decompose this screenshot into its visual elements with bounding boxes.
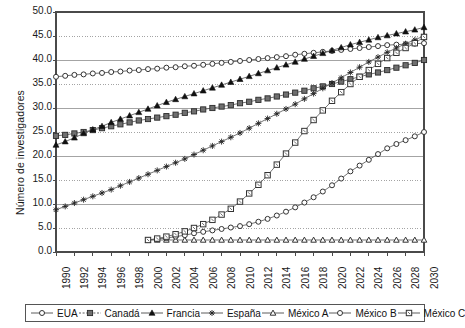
x-tick-label: 2002 xyxy=(171,267,182,289)
x-tick-label: 2006 xyxy=(208,267,219,289)
data-point xyxy=(228,225,233,230)
x-tick-label: 2016 xyxy=(300,267,311,289)
data-point xyxy=(173,232,178,237)
square-filled-icon xyxy=(78,307,102,319)
legend-item-méxico-b[interactable]: México B xyxy=(328,307,396,319)
data-point xyxy=(219,226,224,231)
data-point xyxy=(40,311,45,316)
data-point xyxy=(145,237,150,242)
legend-item-méxico-a[interactable]: México A xyxy=(261,307,329,319)
data-point xyxy=(63,132,68,137)
data-point xyxy=(421,34,426,39)
data-point xyxy=(182,64,187,69)
data-point xyxy=(155,66,160,71)
data-point xyxy=(320,85,326,91)
data-point xyxy=(164,65,169,70)
data-point xyxy=(201,107,206,112)
legend-label: EUA xyxy=(56,308,78,319)
data-point xyxy=(385,43,390,48)
data-point xyxy=(219,104,224,109)
triangle-filled-icon xyxy=(140,307,164,319)
legend-item-francia[interactable]: Francia xyxy=(140,307,200,319)
data-point xyxy=(238,224,243,229)
data-point xyxy=(81,197,87,203)
data-point xyxy=(191,225,196,230)
data-point xyxy=(265,96,270,101)
data-point xyxy=(256,97,261,102)
data-point xyxy=(182,229,187,234)
data-point xyxy=(329,98,334,103)
data-point xyxy=(422,130,427,135)
data-point xyxy=(219,212,224,217)
data-point xyxy=(228,103,233,108)
legend-item-canadá[interactable]: Canadá xyxy=(78,307,140,319)
data-point xyxy=(228,134,234,140)
data-point xyxy=(293,90,298,95)
data-point xyxy=(292,101,298,107)
data-point xyxy=(412,60,417,65)
data-point xyxy=(357,64,363,70)
y-tick-label: 5.0 xyxy=(12,221,52,232)
data-point xyxy=(366,59,372,65)
data-point xyxy=(219,60,224,65)
y-tick-label: 50.0 xyxy=(12,5,52,16)
y-tick-label: 0.0 xyxy=(12,245,52,256)
data-point xyxy=(293,140,298,145)
data-point xyxy=(191,109,196,114)
data-point xyxy=(406,310,411,315)
data-point xyxy=(255,120,261,126)
data-point xyxy=(192,63,197,68)
x-tick-label: 2004 xyxy=(189,267,200,289)
y-tick-label: 45.0 xyxy=(12,29,52,40)
data-point xyxy=(155,115,160,120)
data-point xyxy=(284,54,289,59)
data-point xyxy=(293,205,298,210)
legend-item-españa[interactable]: España xyxy=(200,307,261,319)
data-point xyxy=(412,134,417,139)
data-point xyxy=(320,189,325,194)
data-point xyxy=(366,157,371,162)
y-tick-label: 15.0 xyxy=(12,173,52,184)
data-point xyxy=(99,190,105,196)
data-point xyxy=(338,75,344,81)
data-point xyxy=(311,117,316,122)
data-point xyxy=(274,111,280,117)
data-point xyxy=(366,67,371,72)
data-point xyxy=(108,187,114,193)
data-point xyxy=(376,152,381,157)
data-point xyxy=(375,54,381,60)
legend-item-méxico-c[interactable]: México C xyxy=(397,307,465,319)
data-point xyxy=(81,72,86,77)
data-point xyxy=(247,99,252,104)
data-point xyxy=(412,41,417,46)
data-point xyxy=(210,105,215,110)
data-point xyxy=(384,49,390,55)
x-tick-label: 2030 xyxy=(429,267,440,289)
data-point xyxy=(72,72,77,77)
data-point xyxy=(256,182,261,187)
data-point xyxy=(265,216,270,221)
data-point xyxy=(237,130,243,136)
data-point xyxy=(201,221,206,226)
data-point xyxy=(71,200,77,206)
x-tick-label: 1992 xyxy=(79,267,90,289)
data-point xyxy=(422,41,427,46)
x-tick-label: 2024 xyxy=(373,267,384,289)
data-point xyxy=(209,143,215,149)
triangle-open-icon xyxy=(261,307,285,319)
data-point xyxy=(265,56,270,61)
data-point xyxy=(283,106,289,112)
data-point xyxy=(136,175,142,181)
data-point xyxy=(118,69,123,74)
legend-label: México A xyxy=(287,308,329,319)
data-point xyxy=(192,231,197,236)
data-point xyxy=(117,183,123,189)
data-point xyxy=(348,169,353,174)
chart-legend: EUACanadáFranciaEspañaMéxico AMéxico BMé… xyxy=(25,304,425,322)
data-point xyxy=(182,156,188,162)
star-x-icon xyxy=(200,307,224,319)
data-point xyxy=(219,139,225,145)
data-point xyxy=(330,183,335,188)
data-point xyxy=(394,142,399,147)
legend-item-eua[interactable]: EUA xyxy=(30,307,78,319)
